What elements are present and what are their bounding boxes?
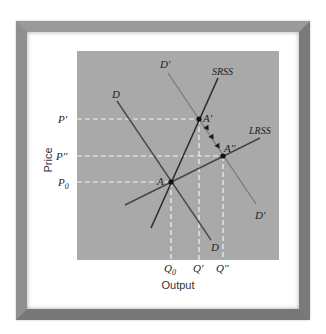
demand-label-top: D [111,88,120,100]
y-tick-p-zero: P0 [57,176,69,191]
x-axis-title: Output [161,279,194,291]
srss-label: SRSS [212,66,233,77]
economics-diagram: D' D' D D SRSS LRSS A A' A'' P' P'' P0 Q… [0,0,326,334]
demand-label-bottom: D [210,241,219,253]
x-tick-q-zero: Q0 [164,262,176,277]
demand-shifted-label-top: D' [159,58,171,70]
point-a-double-prime-label: A'' [223,142,236,154]
point-a [168,179,173,184]
y-axis-title: Price [42,147,54,172]
x-tick-q-double-prime: Q'' [216,262,229,274]
point-a-prime-label: A' [202,112,213,124]
point-a-label: A [156,175,164,187]
y-tick-p-double-prime: P'' [55,150,68,162]
point-a-prime [196,116,201,121]
point-a-double-prime [220,153,225,158]
y-tick-p-prime: P' [57,113,68,125]
lrss-label: LRSS [248,125,271,136]
x-tick-q-prime: Q' [193,262,204,274]
demand-shifted-label-bottom: D' [254,209,266,221]
